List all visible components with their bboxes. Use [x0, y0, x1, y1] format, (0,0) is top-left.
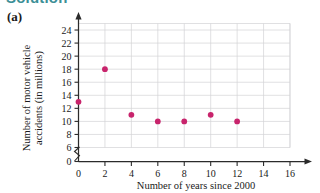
x-tick-label: 16 — [285, 168, 295, 179]
x-tick-label: 6 — [155, 168, 160, 179]
y-tick-label: 12 — [62, 103, 72, 114]
x-tick-label: 10 — [206, 168, 216, 179]
x-axis-arrowhead — [305, 158, 313, 164]
data-point — [102, 66, 108, 72]
x-tick-label: 12 — [232, 168, 242, 179]
y-tick-label: 10 — [62, 116, 72, 127]
data-point — [208, 112, 214, 118]
x-tick-label: 0 — [76, 168, 81, 179]
y-axis-title-line1: Number of motor vehicle — [21, 44, 32, 151]
data-point — [155, 118, 161, 124]
y-axis — [75, 12, 81, 162]
x-tick-label: 4 — [129, 168, 134, 179]
y-axis-title-line2: accidents (in millions) — [33, 51, 45, 145]
x-axis-title: Number of years since 2000 — [137, 180, 255, 191]
y-axis-arrowhead — [75, 12, 81, 20]
y-tick-label: 0 — [67, 156, 72, 167]
y-tick-label: 14 — [62, 90, 72, 101]
y-tick-label: 6 — [67, 142, 72, 153]
x-axis — [79, 158, 313, 164]
y-tick-label: 16 — [62, 77, 72, 88]
data-point — [76, 99, 82, 105]
x-axis-ticks: 0246810121416 — [76, 162, 295, 180]
y-tick-label: 20 — [62, 51, 72, 62]
scatter-plot-svg: 0681012141618202224 0246810121416 Number… — [0, 0, 320, 193]
figure-panel: Solution (a) 0681012141618202224 — [0, 0, 320, 193]
x-tick-label: 2 — [102, 168, 107, 179]
scatter-plot: 0681012141618202224 0246810121416 Number… — [0, 0, 320, 193]
y-tick-label: 8 — [67, 129, 72, 140]
y-tick-label: 22 — [62, 38, 72, 49]
x-tick-label: 14 — [259, 168, 269, 179]
x-tick-label: 8 — [182, 168, 187, 179]
grid-vertical — [105, 24, 290, 148]
y-axis-ticks: 0681012141618202224 — [62, 25, 79, 167]
y-tick-label: 24 — [62, 25, 72, 36]
data-point — [181, 118, 187, 124]
data-point — [234, 118, 240, 124]
data-point — [128, 112, 134, 118]
y-tick-label: 18 — [62, 64, 72, 75]
